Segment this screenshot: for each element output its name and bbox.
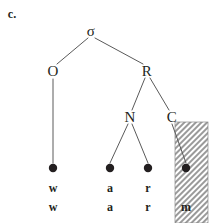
timing-slot-dots — [49, 164, 190, 172]
timing-slot-3 — [144, 164, 152, 172]
tree-edge-sigma-rhyme — [95, 38, 143, 64]
node-nucleus: N — [124, 110, 135, 125]
timing-slot-1 — [49, 164, 57, 172]
tree-edge-nucleus-slot3 — [132, 124, 148, 163]
node-rhyme: R — [142, 64, 152, 79]
tree-edges — [53, 38, 186, 163]
tree-edge-sigma-onset — [57, 38, 88, 64]
syllable-tree-figure: c. σ O R N C w a r w a r m — [0, 0, 214, 223]
timing-slot-4 — [182, 164, 190, 172]
melody-segment-1: w — [49, 182, 58, 194]
node-sigma: σ — [87, 24, 95, 39]
surface-segment-2: a — [107, 201, 113, 213]
surface-segment-4: m — [181, 201, 191, 213]
tree-edge-nucleus-slot2 — [110, 124, 128, 163]
melody-segment-3: r — [145, 182, 150, 194]
tree-edge-rhyme-nucleus — [132, 78, 145, 110]
tree-edge-rhyme-coda — [150, 78, 169, 110]
surface-segment-3: r — [145, 201, 150, 213]
figure-item-label: c. — [8, 8, 17, 20]
timing-slot-2 — [106, 164, 114, 172]
surface-segment-1: w — [49, 201, 58, 213]
node-onset: O — [47, 64, 58, 79]
melody-segment-2: a — [107, 182, 113, 194]
node-coda: C — [167, 110, 177, 125]
shaded-coda-region — [175, 122, 208, 223]
